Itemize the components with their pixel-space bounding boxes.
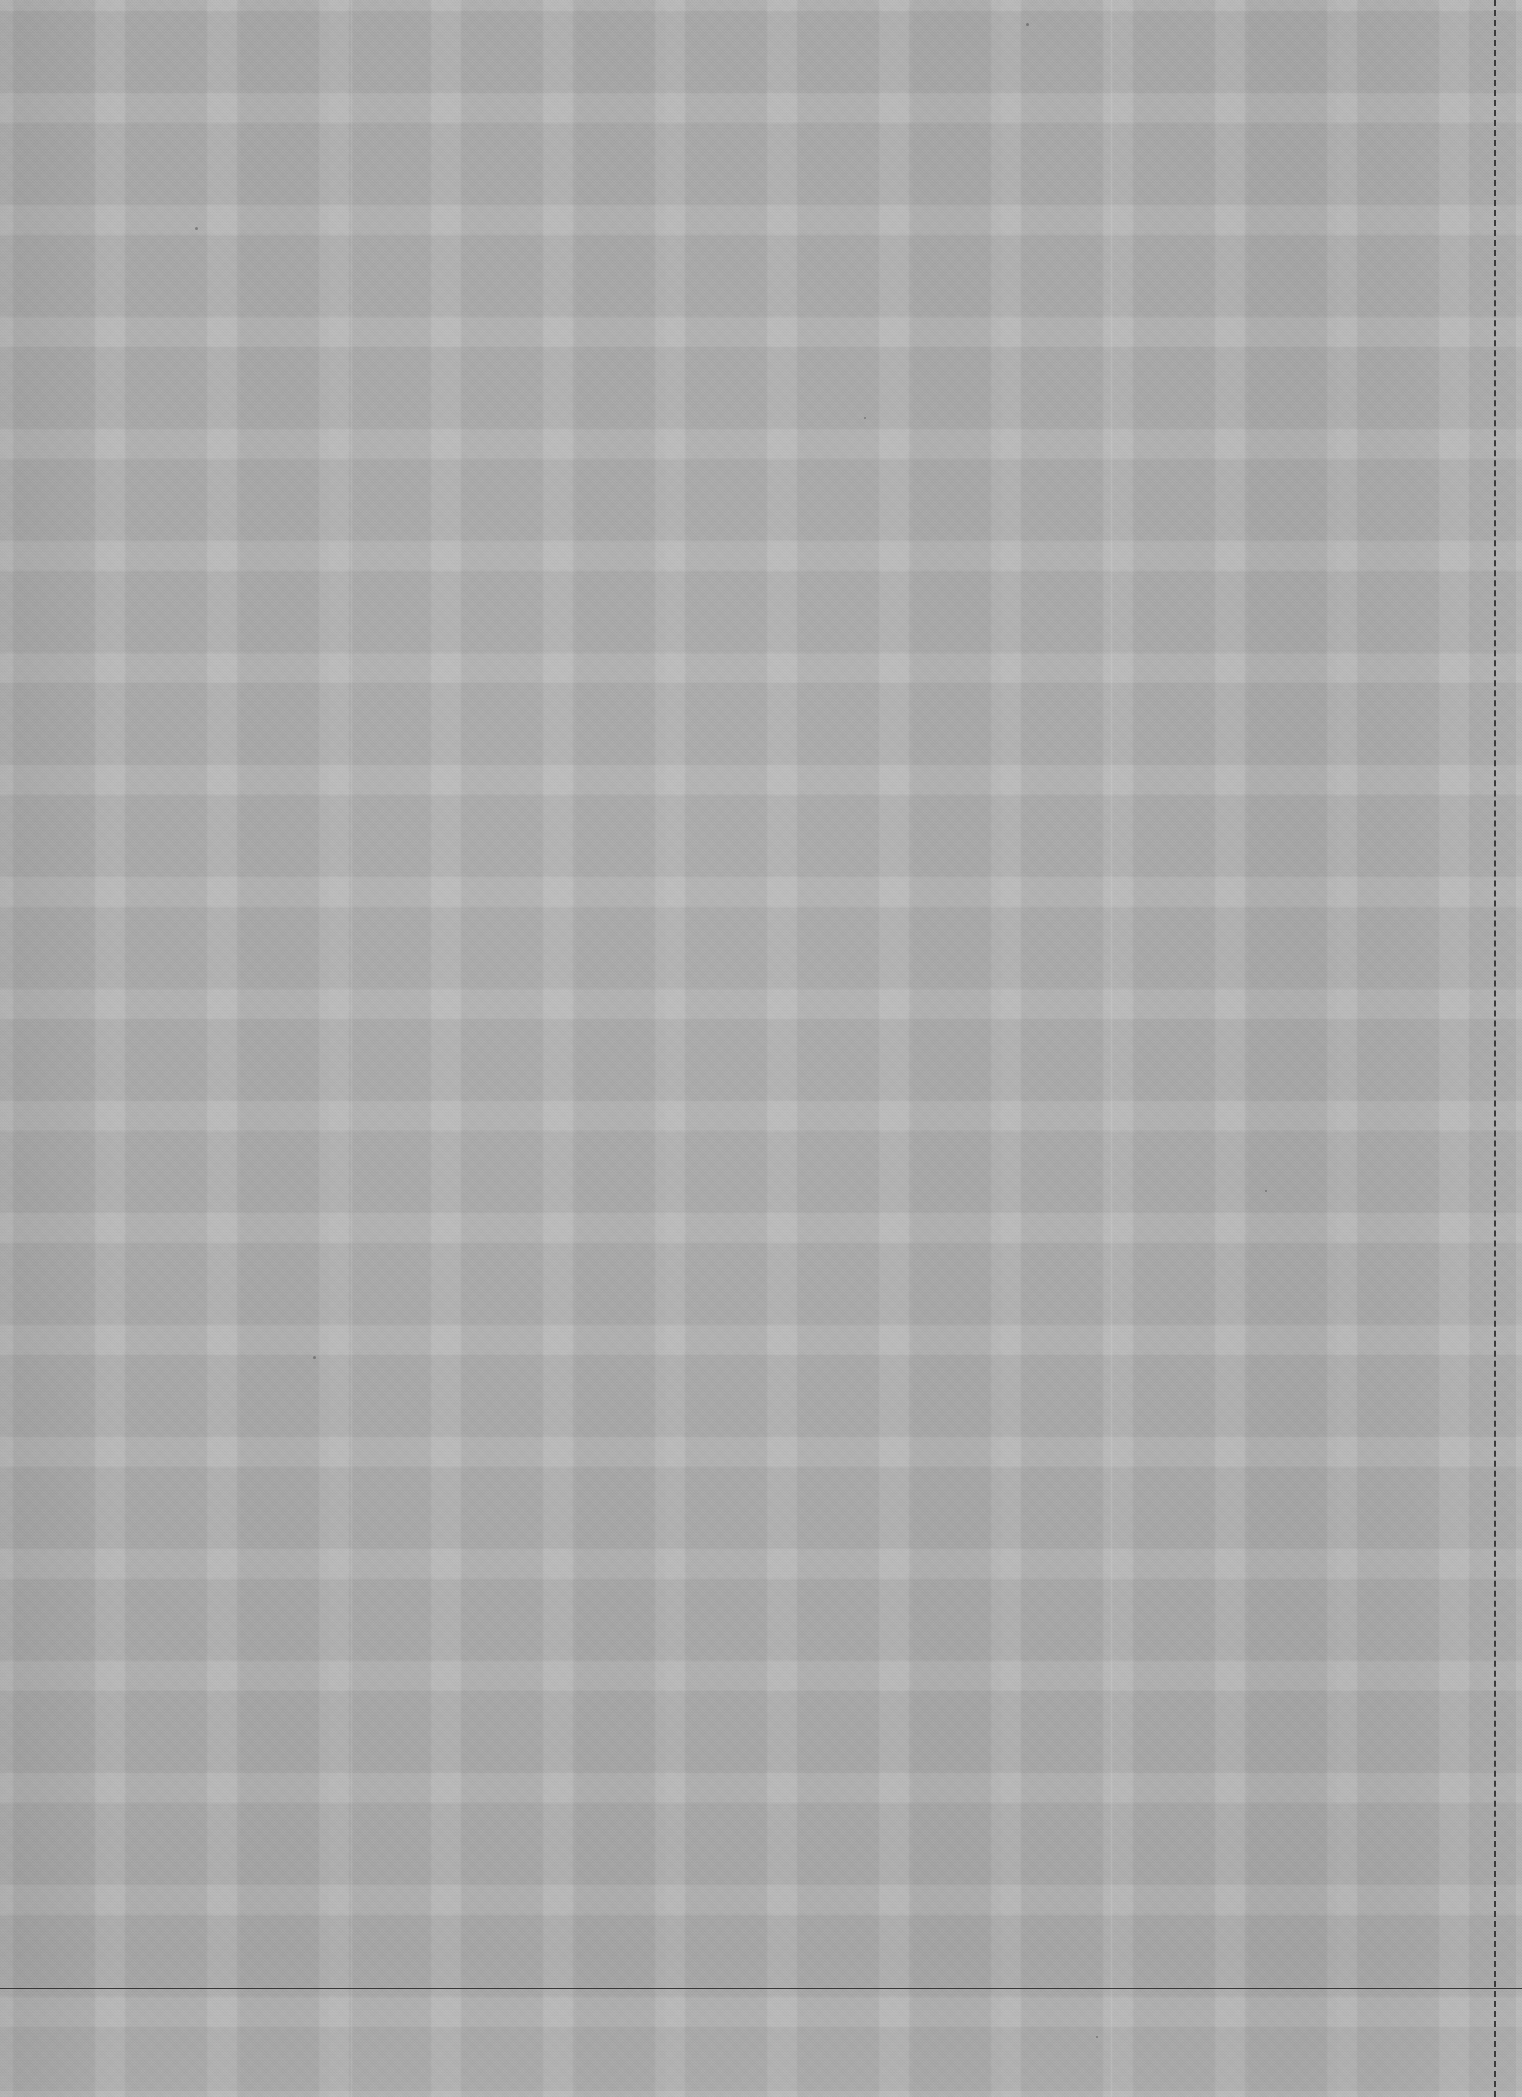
horizontal-rule: [0, 1988, 1522, 1989]
paper-crease-1: [1110, 0, 1113, 2097]
scan-speck-2: [313, 1356, 316, 1359]
scan-speck-1: [1026, 23, 1029, 26]
scan-left-shading: [0, 0, 120, 2097]
scan-right-shading: [1372, 0, 1522, 2097]
dashed-margin-rule: [1494, 0, 1496, 2097]
paper-crease-0: [350, 0, 353, 2097]
scan-vignette: [0, 0, 1522, 2097]
scan-bottom-shading: [0, 1947, 1522, 2097]
scan-speck-3: [1265, 1190, 1267, 1192]
scan-speck-5: [864, 417, 866, 419]
scan-speck-0: [195, 227, 198, 230]
scanned-page: [0, 0, 1522, 2097]
scan-speck-4: [1096, 2036, 1098, 2038]
